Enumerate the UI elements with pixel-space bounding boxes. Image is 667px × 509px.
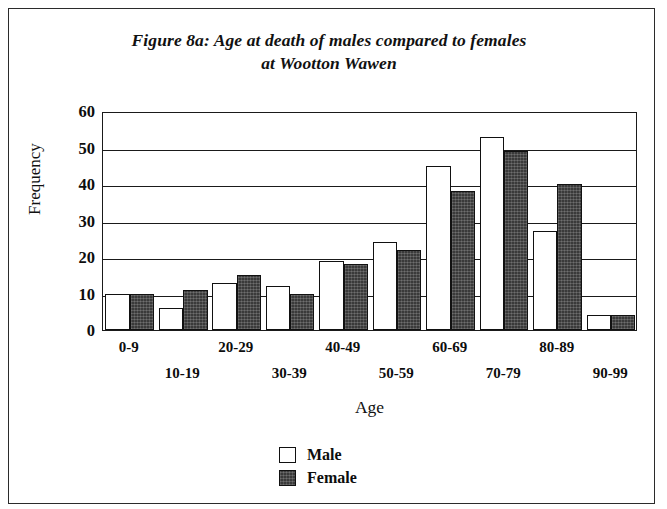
bar-group — [317, 113, 370, 330]
y-tick-label: 20 — [79, 248, 96, 268]
y-axis-title: Frequency — [25, 119, 45, 239]
legend-label-male: Male — [307, 446, 342, 464]
bar-female-20-29[interactable] — [237, 275, 261, 330]
bar-female-80-89[interactable] — [557, 184, 581, 330]
y-tick-label: 50 — [79, 138, 96, 158]
y-tick-label: 60 — [79, 102, 96, 122]
x-tick-label: 50-59 — [379, 365, 414, 382]
x-axis-tick-labels: 0-910-1920-2930-3940-4950-5960-6970-7980… — [102, 335, 637, 391]
bar-female-0-9[interactable] — [130, 294, 154, 331]
chart-title-line-2: at Wootton Wawen — [69, 52, 589, 75]
bar-male-90-99[interactable] — [587, 315, 611, 330]
bar-series-layer — [103, 113, 636, 330]
bar-female-90-99[interactable] — [611, 315, 635, 330]
x-tick-label: 90-99 — [593, 365, 628, 382]
bar-male-50-59[interactable] — [373, 242, 397, 330]
figure-frame: Figure 8a: Age at death of males compare… — [8, 8, 655, 504]
x-tick-label: 20-29 — [218, 339, 253, 356]
x-tick-label: 60-69 — [432, 339, 467, 356]
bar-female-30-39[interactable] — [290, 294, 314, 331]
y-axis-tick-labels: 0102030405060 — [57, 112, 95, 331]
bar-male-80-89[interactable] — [533, 231, 557, 330]
bar-male-60-69[interactable] — [426, 166, 450, 330]
bar-group — [531, 113, 584, 330]
x-tick-label: 30-39 — [272, 365, 307, 382]
bar-male-20-29[interactable] — [212, 283, 236, 330]
bar-group — [263, 113, 316, 330]
x-tick-label: 80-89 — [539, 339, 574, 356]
bar-female-50-59[interactable] — [397, 250, 421, 330]
bar-group — [370, 113, 423, 330]
plot-area — [102, 112, 637, 331]
x-tick-label: 70-79 — [486, 365, 521, 382]
bar-group — [156, 113, 209, 330]
x-tick-label: 10-19 — [165, 365, 200, 382]
x-tick-label: 0-9 — [119, 339, 139, 356]
bar-male-0-9[interactable] — [105, 294, 129, 331]
chart-title: Figure 8a: Age at death of males compare… — [69, 29, 589, 75]
bar-group — [103, 113, 156, 330]
y-tick-label: 0 — [87, 321, 95, 341]
bar-female-60-69[interactable] — [451, 191, 475, 330]
legend-swatch-male-icon — [279, 447, 296, 463]
x-axis-title: Age — [102, 397, 637, 418]
y-tick-label: 30 — [79, 211, 96, 231]
legend-label-female: Female — [307, 469, 357, 487]
legend-item-male: Male — [279, 443, 469, 466]
bar-group — [477, 113, 530, 330]
x-tick-label: 40-49 — [325, 339, 360, 356]
bar-male-10-19[interactable] — [159, 308, 183, 330]
bar-group — [584, 113, 637, 330]
bar-group — [210, 113, 263, 330]
bar-female-40-49[interactable] — [344, 264, 368, 330]
y-tick-label: 40 — [79, 175, 96, 195]
bar-male-30-39[interactable] — [266, 286, 290, 330]
bar-group — [424, 113, 477, 330]
bar-female-70-79[interactable] — [504, 151, 528, 330]
legend-item-female: Female — [279, 466, 469, 489]
legend-swatch-female-icon — [279, 470, 296, 486]
bar-female-10-19[interactable] — [183, 290, 207, 330]
chart-legend: Male Female — [279, 443, 469, 489]
chart-title-line-1: Figure 8a: Age at death of males compare… — [69, 29, 589, 52]
y-tick-label: 10 — [79, 284, 96, 304]
bar-male-40-49[interactable] — [319, 261, 343, 330]
bar-male-70-79[interactable] — [480, 137, 504, 330]
